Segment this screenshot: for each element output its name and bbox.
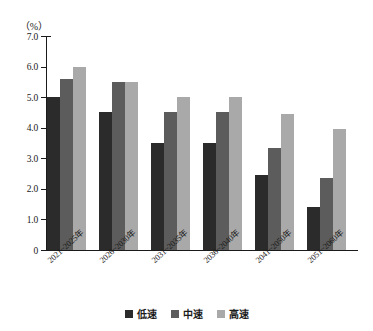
legend-item-低速[interactable]: 低速 (125, 306, 157, 321)
y-axis-tick-label: 7.0 (27, 32, 38, 42)
bar-中速-2036~2040年 (216, 112, 229, 250)
legend-item-中速[interactable]: 中速 (171, 306, 203, 321)
y-axis-tick-label: 4.0 (27, 123, 38, 133)
y-axis-tick-label: 2.0 (27, 184, 38, 194)
bar-低速-2041~2050年 (255, 175, 268, 250)
bar-中速-2031~2035年 (164, 112, 177, 250)
y-axis-tick-label: 0 (33, 246, 38, 256)
plot-area: 01.02.03.04.05.06.07.0 (46, 36, 358, 251)
y-axis-tick: 2.0 (41, 189, 46, 190)
y-axis-tick-label: 5.0 (27, 93, 38, 103)
bar-低速-2031~2035年 (151, 143, 164, 250)
y-axis-tick: 6.0 (41, 67, 46, 68)
y-axis-tick: 0 (41, 250, 46, 251)
legend-swatch-icon (217, 310, 225, 318)
bar-group (203, 36, 242, 250)
bar-group (255, 36, 294, 250)
bar-低速-2021~2025年 (47, 97, 60, 250)
y-axis-tick-label: 1.0 (27, 215, 38, 225)
bar-chart-figure: （%） 01.02.03.04.05.06.07.0 2021~2025年202… (0, 0, 373, 331)
legend-label: 低速 (137, 306, 157, 321)
y-axis-tick: 5.0 (41, 97, 46, 98)
y-axis-tick-label: 6.0 (27, 62, 38, 72)
y-axis-tick: 1.0 (41, 219, 46, 220)
legend-swatch-icon (125, 310, 133, 318)
y-axis-tick-label: 3.0 (27, 154, 38, 164)
bar-低速-2026~2030年 (99, 112, 112, 250)
bar-中速-2026~2030年 (112, 82, 125, 250)
legend-swatch-icon (171, 310, 179, 318)
legend-label: 中速 (183, 306, 203, 321)
y-axis-tick: 7.0 (41, 36, 46, 37)
bar-group (307, 36, 346, 250)
bar-高速-2021~2025年 (73, 67, 86, 250)
bar-group (99, 36, 138, 250)
y-axis-tick: 3.0 (41, 158, 46, 159)
y-axis-tick: 4.0 (41, 128, 46, 129)
bar-低速-2036~2040年 (203, 143, 216, 250)
bar-group (47, 36, 86, 250)
bar-中速-2021~2025年 (60, 79, 73, 250)
legend-item-高速[interactable]: 高速 (217, 306, 249, 321)
bar-高速-2026~2030年 (125, 82, 138, 250)
chart-legend: 低速中速高速 (0, 306, 373, 321)
bar-group (151, 36, 190, 250)
legend-label: 高速 (229, 306, 249, 321)
